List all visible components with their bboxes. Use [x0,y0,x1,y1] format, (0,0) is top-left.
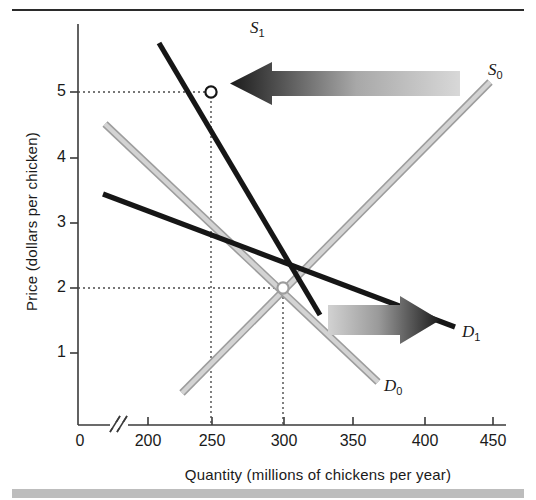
y-axis-ticks [70,92,78,353]
equilibrium-marker-old [277,282,288,293]
curve-label-S0: S0 [488,60,503,81]
y-tick-label-5: 5 [36,82,66,100]
demand-shift-arrow-icon [328,296,440,344]
x-tick-label-300: 300 [259,432,309,450]
curve-label-S1-base: S [250,18,259,37]
y-tick-label-4: 4 [36,148,66,166]
curve-label-D1-sub: 1 [474,331,480,343]
supply-shift-arrow-icon [230,62,460,105]
x-axis-title: Quantity (millions of chickens per year) [128,466,508,483]
y-tick-label-1: 1 [36,343,66,361]
x-axis-origin-label: 0 [55,432,105,450]
curve-label-S1-sub: 1 [259,27,265,39]
supply-demand-figure: Price (dollars per chicken) Quantity (mi… [0,0,536,500]
curve-D0 [105,124,378,382]
x-axis-break-icon [110,416,128,432]
curve-label-S1: S1 [250,18,265,39]
curve-label-D0: D0 [384,376,402,397]
x-tick-label-450: 450 [468,432,518,450]
curve-label-D1-base: D [462,322,474,341]
curve-label-S0-sub: 0 [497,69,503,81]
figure-bottom-band [12,489,524,498]
chart-canvas [0,0,536,500]
curve-label-S0-base: S [488,60,497,79]
x-tick-label-250: 250 [187,432,237,450]
curve-label-D1: D1 [462,322,480,343]
curve-label-D0-base: D [384,376,396,395]
curve-label-D0-sub: 0 [396,385,402,397]
equilibrium-marker-new [205,86,216,97]
y-tick-label-3: 3 [36,213,66,231]
x-axis-ticks [148,417,493,425]
y-tick-label-2: 2 [36,278,66,296]
x-tick-label-200: 200 [123,432,173,450]
x-tick-label-400: 400 [400,432,450,450]
x-tick-label-350: 350 [328,432,378,450]
